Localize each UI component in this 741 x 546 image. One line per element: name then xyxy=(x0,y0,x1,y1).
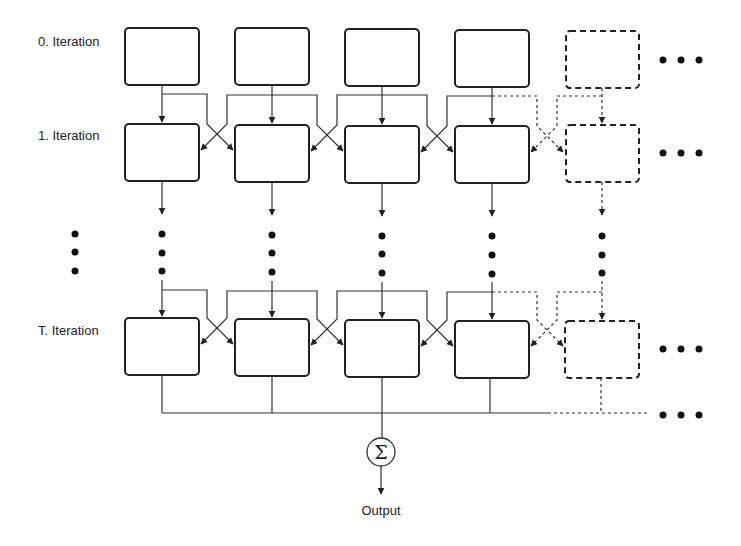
ellipsis-left xyxy=(72,231,79,275)
node-0-3 xyxy=(345,29,419,86)
node-1-4 xyxy=(455,126,529,183)
ellipsis-row-t xyxy=(660,346,703,353)
row-label-0: 0. Iteration xyxy=(38,34,99,49)
node-0-4 xyxy=(455,30,529,87)
node-1-1 xyxy=(125,124,199,181)
node-0-2 xyxy=(235,28,309,85)
ellipsis-col-4 xyxy=(489,233,496,278)
node-1-5-dashed xyxy=(566,125,639,182)
node-t-3 xyxy=(345,320,419,377)
iteration-diagram: 0. Iteration 1. Iteration T. Iteration xyxy=(0,0,741,546)
row-label-t: T. Iteration xyxy=(38,323,99,338)
ellipsis-row-1 xyxy=(660,150,703,157)
ellipsis-col-2 xyxy=(269,232,276,276)
output-bus xyxy=(162,375,648,438)
node-t-2 xyxy=(235,319,309,376)
node-t-5-dashed xyxy=(565,321,639,378)
output-label: Output xyxy=(361,503,400,518)
row-0-boxes xyxy=(125,28,639,88)
ellipsis-col-3 xyxy=(379,233,386,277)
row-1-boxes xyxy=(125,124,639,183)
node-t-1 xyxy=(125,318,199,375)
row-label-1: 1. Iteration xyxy=(38,128,99,143)
node-0-1 xyxy=(125,28,199,85)
node-0-5-dashed xyxy=(566,31,639,88)
ellipsis-row-0 xyxy=(660,57,703,64)
sum-node: Σ xyxy=(367,438,395,494)
node-1-2 xyxy=(235,125,309,182)
ellipsis-bus xyxy=(660,412,703,419)
row-t-boxes xyxy=(125,318,639,378)
vertical-ellipsis-dots xyxy=(72,231,606,278)
sum-symbol: Σ xyxy=(374,441,387,463)
node-t-4 xyxy=(455,321,529,378)
horizontal-ellipsis xyxy=(660,57,703,419)
ellipsis-col-5 xyxy=(599,233,606,277)
connections-1-to-ellipsis xyxy=(162,181,602,216)
ellipsis-col-1 xyxy=(159,231,166,275)
node-1-3 xyxy=(345,126,419,183)
